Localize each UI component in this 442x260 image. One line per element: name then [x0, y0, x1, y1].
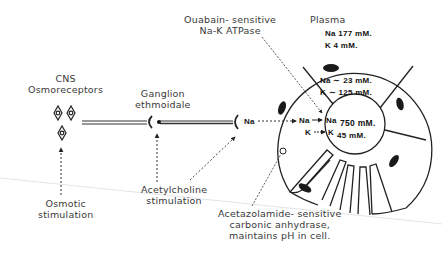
cns-title: CNS Osmoreceptors [28, 73, 103, 95]
lumen-na-in: Na [299, 116, 310, 125]
nerve-ending [235, 115, 238, 129]
lumen-k-out: K [328, 128, 334, 137]
ganglion-synapse [149, 116, 152, 128]
acetylcholine-line1: Acetylcholine [141, 184, 207, 195]
plasma-k: K 4 mM. [325, 41, 358, 50]
acetylcholine-line2: stimulation [141, 195, 207, 206]
lumen-k-conc: 45 mM. [337, 131, 366, 140]
atpase-label: Ouabain- sensitive Na-K ATPase [184, 14, 276, 36]
ganglion-title: Ganglion ethmoidale [135, 88, 191, 110]
lumen-na-conc: 750 mM. [340, 119, 376, 128]
atpase-line1: Ouabain- sensitive [184, 14, 276, 25]
carbonic-anhydrase-label: Acetazolamide- sensitive carbonic anhydr… [218, 208, 341, 241]
cns-title-line1: CNS [28, 73, 103, 84]
ca-line2: carbonic anhydrase, [218, 219, 341, 230]
osmotic-line2: stimulation [38, 209, 93, 220]
osmotic-stimulation-label: Osmotic stimulation [38, 198, 93, 220]
acetylcholine-label: Acetylcholine stimulation [141, 184, 207, 206]
postganglionic-nerve [160, 121, 233, 124]
plasma-na: Na 177 mM. [325, 29, 372, 38]
lumen-na-out: Na [326, 116, 337, 125]
nerve-na-label: Na [244, 117, 255, 126]
osmotic-line1: Osmotic [38, 198, 93, 209]
osmoreceptor-cells [54, 106, 75, 140]
plasma-title: Plasma [310, 14, 345, 25]
cns-title-line2: Osmoreceptors [28, 84, 103, 95]
preganglionic-nerve [82, 121, 147, 124]
cell-na: Na ∼ 23 mM. [320, 76, 372, 85]
atpase-line2: Na-K ATPase [184, 25, 276, 36]
ca-line1: Acetazolamide- sensitive [218, 208, 341, 219]
ganglion-line2: ethmoidale [135, 99, 191, 110]
lumen-k-in: K [305, 128, 311, 137]
cell-k: K ∼ 125 mM. [320, 88, 372, 97]
ca-line3: maintains pH in cell. [218, 230, 341, 241]
ganglion-line1: Ganglion [135, 88, 191, 99]
